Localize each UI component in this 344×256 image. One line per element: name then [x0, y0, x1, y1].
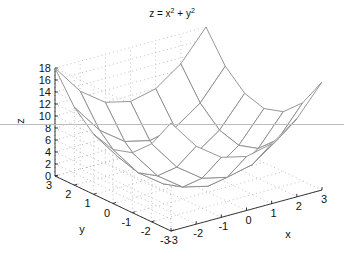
x-tick-label: 3: [321, 193, 327, 205]
z-tick-label: 16: [39, 74, 51, 86]
x-tick-label: -2: [193, 227, 203, 239]
y-tick-label: -2: [141, 225, 151, 237]
x-tick-label: 0: [245, 214, 251, 226]
y-axis-label: y: [79, 223, 85, 235]
z-tick-label: 6: [45, 134, 51, 146]
x-tick-label: 2: [296, 200, 302, 212]
y-tick-label: 0: [104, 207, 110, 219]
surface-plot: -3-2-10123-3-2-10123024681012141618xyz: [0, 0, 344, 256]
y-tick-label: -1: [121, 216, 131, 228]
x-axis-label: x: [285, 228, 291, 240]
y-tick: [74, 184, 77, 185]
z-tick-label: 4: [45, 146, 51, 158]
y-tick-label: -3: [160, 234, 170, 246]
z-tick-label: 18: [39, 62, 51, 74]
x-tick-label: -1: [218, 220, 228, 232]
y-tick: [113, 203, 116, 204]
z-tick-label: 10: [39, 110, 51, 122]
x-tick-label: 1: [271, 207, 277, 219]
z-tick-label: 14: [39, 86, 51, 98]
y-tick: [94, 193, 97, 194]
z-tick-label: 2: [45, 158, 51, 170]
y-tick: [132, 212, 135, 213]
z-tick-label: 12: [39, 98, 51, 110]
y-tick-label: 1: [85, 197, 91, 209]
z-axis-label: z: [14, 118, 26, 124]
y-tick: [152, 221, 155, 222]
z-tick-label: 0: [45, 170, 51, 182]
horizontal-artifact-line: [0, 124, 344, 125]
y-tick-label: 2: [65, 188, 71, 200]
surface-mesh: [55, 27, 322, 187]
